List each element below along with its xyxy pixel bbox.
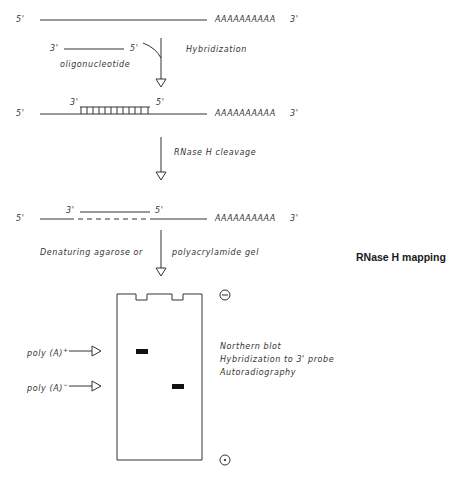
base-pair-ticks: [81, 107, 148, 114]
cleaved-5-prime-label: 5': [16, 215, 25, 223]
oligo-5-prime-label: 5': [130, 45, 139, 53]
poly-a-plus-label: poly (A)+: [27, 347, 69, 358]
hybrid-oligo-3-prime-label: 3': [70, 99, 79, 107]
mrna-5-prime-label: 5': [16, 16, 25, 24]
mrna-3-prime-label: 3': [290, 16, 299, 24]
denaturing-step-label-left: Denaturing agarose or: [40, 249, 143, 257]
note-northern-blot: Northern blot: [220, 343, 281, 351]
rnase-h-cleavage-step-label: RNase H cleavage: [174, 149, 256, 157]
poly-a-minus-arrow-head: [92, 381, 101, 391]
mrna-poly-a-label: AAAAAAAAAA: [215, 16, 276, 24]
rnase-h-mapping-diagram: 5' AAAAAAAAAA 3' 3' 5' oligonucleotide H…: [0, 0, 467, 477]
poly-a-minus-text: poly (A): [27, 384, 63, 393]
cleaved-3-prime-label: 3': [290, 215, 299, 223]
cleaved-oligo-5-prime-label: 5': [155, 207, 164, 215]
hybrid-poly-a-label: AAAAAAAAAA: [215, 110, 276, 118]
cleaved-poly-a-label: AAAAAAAAAA: [215, 215, 276, 223]
hybrid-oligo-5-prime-label: 5': [156, 99, 165, 107]
poly-a-plus-text: poly (A): [27, 349, 63, 358]
gel-outline: [117, 294, 202, 460]
hybridization-step-label: Hybridization: [186, 46, 247, 54]
hybrid-5-prime-label: 5': [16, 110, 25, 118]
poly-a-minus-superscript: −: [63, 381, 69, 388]
arrow-1-head: [156, 79, 166, 87]
note-autoradiography: Autoradiography: [220, 369, 296, 377]
arrow-2-head: [156, 172, 166, 180]
curved-connector: [143, 43, 161, 58]
poly-a-minus-label: poly (A)−: [27, 382, 69, 393]
poly-a-plus-superscript: +: [63, 346, 69, 353]
cleaved-oligo-3-prime-label: 3': [66, 207, 75, 215]
band-poly-a-minus: [172, 384, 184, 389]
band-poly-a-plus: [136, 349, 148, 354]
poly-a-plus-arrow-head: [92, 346, 101, 356]
oligo-3-prime-label: 3': [50, 45, 59, 53]
arrow-3-head: [156, 268, 166, 276]
diagram-graphics: [0, 0, 467, 477]
hybrid-3-prime-label: 3': [290, 110, 299, 118]
denaturing-step-label-right: polyacrylamide gel: [172, 249, 259, 257]
oligonucleotide-label: oligonucleotide: [60, 61, 130, 69]
figure-title: RNase H mapping: [356, 252, 446, 263]
note-hybridization-probe: Hybridization to 3' probe: [220, 356, 334, 364]
